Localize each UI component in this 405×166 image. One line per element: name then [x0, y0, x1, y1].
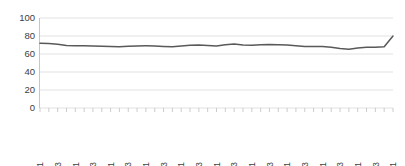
x-axis-tick-labels: 2000Q12000Q32001Q12001Q32002Q12002Q32003… [36, 162, 398, 166]
x-axis-tick-label: 2003Q3 [160, 162, 169, 166]
chart-background [0, 0, 405, 166]
x-axis-tick-label: 2002Q3 [124, 162, 133, 166]
y-axis-tick-label: 60 [24, 48, 35, 59]
chart-canvas: 020406080100 2000Q12000Q32001Q12001Q3200… [0, 0, 405, 166]
x-axis-tick-label: 2006Q3 [266, 162, 275, 166]
line-chart: 020406080100 2000Q12000Q32001Q12001Q3200… [0, 0, 405, 166]
y-axis-tick-label: 100 [19, 12, 35, 23]
x-axis-tick-label: 2004Q3 [195, 162, 204, 166]
y-axis-tick-label: 40 [24, 66, 35, 77]
x-axis-tick-label: 2001Q1 [72, 162, 81, 166]
x-axis-tick-label: 2003Q1 [142, 162, 151, 166]
x-axis-tick-label: 2007Q3 [301, 162, 310, 166]
x-axis-tick-label: 2008Q1 [319, 162, 328, 166]
x-axis-tick-label: 2000Q1 [36, 162, 45, 166]
y-axis-tick-label: 20 [24, 84, 35, 95]
y-axis-tick-label: 0 [30, 102, 35, 113]
x-axis-tick-label: 2004Q1 [177, 162, 186, 166]
x-axis-tick-label: 2002Q1 [107, 162, 116, 166]
x-axis-tick-label: 2000Q3 [54, 162, 63, 166]
x-axis-tick-label: 2009Q3 [372, 162, 381, 166]
x-axis-tick-label: 2001Q3 [89, 162, 98, 166]
x-axis-tick-label: 2006Q1 [248, 162, 257, 166]
y-axis-tick-label: 80 [24, 30, 35, 41]
x-axis-tick-label: 2010Q1 [389, 162, 398, 166]
x-axis-tick-label: 2009Q1 [354, 162, 363, 166]
x-axis-tick-label: 2007Q1 [283, 162, 292, 166]
x-axis-tickmarks [40, 108, 393, 112]
x-axis-tick-label: 2005Q3 [230, 162, 239, 166]
x-axis-tick-label: 2005Q1 [213, 162, 222, 166]
x-axis-tick-label: 2008Q3 [336, 162, 345, 166]
